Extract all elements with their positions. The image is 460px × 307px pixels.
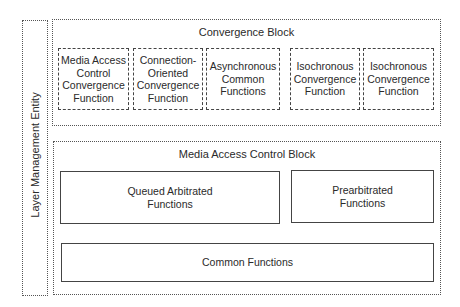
mac-convergence-function: Media Access Control Convergence Functio… [58,48,129,110]
prearbitrated-functions: Prearbitrated Functions [291,170,434,223]
layer-management-entity-label: Layer Management Entity [29,92,41,217]
convergence-block-title: Convergence Block [52,26,441,38]
isochronous-convergence-function-1: Isochronous Convergence Function [290,48,360,110]
asynchronous-common-functions: Asynchronous Common Functions [206,48,280,110]
mac-block-title: Media Access Control Block [53,148,441,160]
queued-arbitrated-functions: Queued Arbitrated Functions [60,171,280,224]
common-functions: Common Functions [61,243,434,282]
connection-oriented-convergence-function: Connection- Oriented Convergence Functio… [133,48,203,110]
isochronous-convergence-function-2: Isochronous Convergence Function [363,48,434,110]
